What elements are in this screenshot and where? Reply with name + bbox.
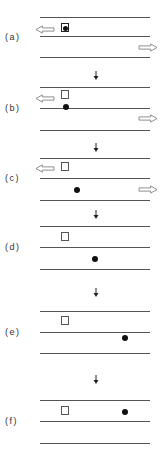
panel-label: (d) (5, 242, 21, 252)
square-marker (61, 90, 69, 99)
lane-line (40, 269, 150, 270)
left-hollow-arrow-icon (34, 164, 56, 173)
down-arrow-icon (92, 210, 100, 219)
dot-marker (63, 104, 69, 110)
square-marker (61, 162, 69, 171)
lane-line (40, 400, 150, 401)
lane-line (40, 421, 150, 422)
panel-label: (f) (5, 416, 18, 426)
right-hollow-arrow-icon (137, 43, 159, 52)
dot-marker (74, 187, 80, 193)
panel-label: (a) (5, 32, 21, 42)
lane-line (40, 36, 150, 37)
left-hollow-arrow-icon (34, 94, 56, 103)
down-arrow-icon (92, 288, 100, 297)
down-arrow-icon (92, 375, 100, 384)
square-marker (61, 316, 69, 325)
panel-label: (c) (5, 173, 20, 183)
lane-line (40, 443, 150, 444)
lane-line (40, 226, 150, 227)
lane-line (40, 130, 150, 131)
down-arrow-icon (92, 71, 100, 80)
lane-line (40, 178, 150, 179)
square-marker (61, 232, 69, 241)
lane-line (40, 57, 150, 58)
down-arrow-icon (92, 143, 100, 152)
square-marker (61, 406, 69, 415)
left-hollow-arrow-icon (34, 25, 56, 34)
right-hollow-arrow-icon (137, 185, 159, 194)
lane-line (40, 247, 150, 248)
panel-label: (b) (5, 103, 21, 113)
lane-line (40, 353, 150, 354)
lane-line (40, 200, 150, 201)
lane-line (40, 17, 150, 18)
dot-marker (92, 256, 98, 262)
lane-line (40, 108, 150, 109)
lane-line (40, 311, 150, 312)
lane-line (40, 87, 150, 88)
dot-marker (63, 26, 68, 31)
lane-line (40, 332, 150, 333)
lane-line (40, 158, 150, 159)
right-hollow-arrow-icon (137, 114, 159, 123)
panel-label: (e) (5, 327, 21, 337)
dot-marker (122, 335, 128, 341)
dot-marker (122, 409, 128, 415)
